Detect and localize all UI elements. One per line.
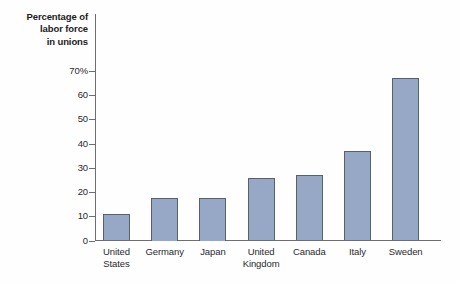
y-tick-label-20: 20 [36,186,88,198]
y-tick-60 [89,95,95,96]
y-tick-label-40: 40 [36,138,88,150]
y-tick-0 [89,241,95,242]
y-tick-50 [89,119,95,120]
y-tick-label-10: 10 [36,210,88,222]
y-tick-label-50: 50 [36,113,88,125]
y-tick-label-60: 60 [36,89,88,101]
bar-chart: Percentage of labor force in unions 0102… [0,0,459,283]
y-tick-label-text: 0 [40,235,88,246]
bar [248,178,275,241]
y-tick-10 [89,216,95,217]
y-tick-label-text: 70% [40,65,88,76]
y-tick-70 [89,71,95,72]
y-tick-label-70: 70% [36,65,88,77]
bar [296,175,323,240]
x-axis-label-line: Kingdom [228,258,294,270]
y-axis-title-line-1: Percentage of [8,11,88,23]
y-tick-label-text: 60 [40,89,88,100]
y-tick-label-text: 50 [40,113,88,124]
y-tick-20 [89,192,95,193]
bar [199,198,226,240]
y-tick-label-0: 0 [36,235,88,247]
y-tick-label-text: 30 [40,162,88,173]
bar [392,78,419,240]
bar [344,151,371,241]
y-tick-30 [89,168,95,169]
y-tick-40 [89,144,95,145]
y-tick-label-text: 40 [40,138,88,149]
y-axis-title-line-2: labor force [8,23,88,35]
bar [103,214,130,241]
y-axis-title: Percentage of labor force in unions [8,11,88,48]
x-axis-label-line: Sweden [373,246,439,258]
x-axis-label-line: States [84,258,150,270]
y-tick-label-text: 10 [40,210,88,221]
y-axis-line [95,14,96,241]
y-axis-title-line-3: in unions [8,36,88,48]
y-tick-label-30: 30 [36,162,88,174]
y-tick-label-text: 20 [40,186,88,197]
x-axis-label: Sweden [373,246,439,258]
bar [151,198,178,240]
